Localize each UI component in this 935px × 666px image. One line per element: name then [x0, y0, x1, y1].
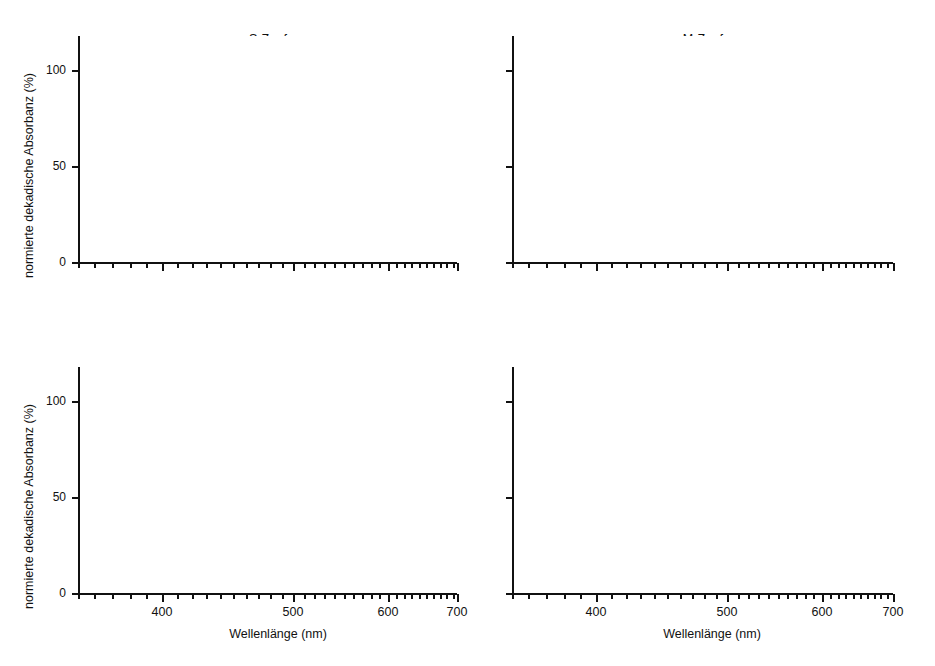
x-tick-440: [654, 263, 656, 268]
x-tick-550: [344, 263, 346, 268]
x-tick-680: [446, 594, 448, 599]
x-tick-630: [845, 594, 847, 599]
x-tick-350: [512, 594, 514, 599]
x-tick-500: [293, 263, 295, 271]
x-tick-420: [192, 594, 194, 599]
x-tick-640: [853, 263, 855, 268]
x-tick-500: [727, 263, 729, 271]
x-tick-410: [177, 594, 179, 599]
x-tick-690: [887, 263, 889, 268]
x-tick-620: [404, 594, 406, 599]
x-tick-450: [667, 594, 669, 599]
x-tick-520: [314, 263, 316, 268]
x-tick-620: [404, 263, 406, 268]
x-tick-650: [860, 594, 862, 599]
x-tick-560: [353, 263, 355, 268]
x-tick-440: [220, 594, 222, 599]
x-tick-460: [246, 263, 248, 268]
panel-l-zapfen: L-Zapfen 0 50 100 normierte dekadische A…: [0, 333, 480, 666]
x-tick-670: [440, 263, 442, 268]
y-tick-50: [72, 166, 79, 168]
x-tick-430: [640, 263, 642, 268]
x-tick-350: [78, 594, 80, 599]
x-tick-500: [727, 594, 729, 602]
x-axis-line: [78, 593, 457, 595]
x-tick-440: [654, 594, 656, 599]
x-tick-660: [867, 594, 869, 599]
x-tick-380: [564, 594, 566, 599]
x-tick-610: [396, 263, 398, 268]
x-tick-540: [334, 263, 336, 268]
x-tick-440: [220, 263, 222, 268]
x-tick-520: [314, 594, 316, 599]
x-tick-470: [692, 263, 694, 268]
x-tick-570: [796, 263, 798, 268]
x-tick-610: [830, 594, 832, 599]
x-tick-530: [324, 594, 326, 599]
x-tick-400: [596, 263, 598, 271]
y-tick-50: [506, 166, 513, 168]
x-tick-600: [822, 594, 824, 602]
x-tick-530: [324, 263, 326, 268]
x-tick-640: [853, 594, 855, 599]
x-tick-700: [893, 263, 895, 271]
x-tick-630: [411, 594, 413, 599]
x-tick-600: [388, 594, 390, 602]
x-tick-690: [453, 594, 455, 599]
x-tick-660: [867, 263, 869, 268]
x-tick-460: [246, 594, 248, 599]
x-tick-label-600: 600: [799, 605, 845, 619]
x-axis-title: Wellenlänge (nm): [622, 627, 802, 641]
x-tick-690: [887, 594, 889, 599]
x-tick-450: [233, 594, 235, 599]
x-tick-650: [426, 594, 428, 599]
x-tick-490: [282, 263, 284, 268]
x-tick-380: [564, 263, 566, 268]
x-tick-label-700: 700: [870, 605, 916, 619]
x-tick-540: [768, 594, 770, 599]
x-tick-360: [94, 263, 96, 268]
x-tick-670: [874, 263, 876, 268]
x-tick-350: [512, 263, 514, 268]
x-tick-370: [546, 594, 548, 599]
x-tick-610: [830, 263, 832, 268]
x-tick-700: [893, 594, 895, 602]
x-tick-420: [626, 594, 628, 599]
x-tick-600: [822, 263, 824, 271]
x-tick-560: [787, 594, 789, 599]
x-tick-660: [433, 263, 435, 268]
x-tick-410: [611, 594, 613, 599]
y-tick-50: [72, 497, 79, 499]
x-axis-line: [512, 262, 893, 264]
x-tick-390: [146, 263, 148, 268]
x-tick-670: [874, 594, 876, 599]
x-tick-540: [334, 594, 336, 599]
x-tick-570: [362, 594, 364, 599]
x-tick-480: [270, 263, 272, 268]
x-tick-350: [78, 263, 80, 268]
x-tick-370: [546, 263, 548, 268]
x-tick-620: [838, 594, 840, 599]
x-tick-480: [704, 594, 706, 599]
x-tick-520: [748, 594, 750, 599]
x-tick-410: [177, 263, 179, 268]
figure-root: S-Zapfen 0 50 100 normierte dekadische A…: [0, 0, 935, 666]
plot-area: [79, 367, 457, 593]
x-tick-460: [680, 263, 682, 268]
x-tick-370: [112, 594, 114, 599]
x-tick-680: [880, 594, 882, 599]
panel-m-zapfen: M-Zapfen: [480, 0, 935, 333]
x-tick-680: [446, 263, 448, 268]
x-tick-490: [282, 594, 284, 599]
x-tick-580: [371, 594, 373, 599]
x-tick-560: [787, 263, 789, 268]
x-tick-570: [796, 594, 798, 599]
x-tick-label-400: 400: [573, 605, 619, 619]
x-tick-630: [411, 263, 413, 268]
y-tick-100: [506, 70, 513, 72]
x-tick-510: [738, 263, 740, 268]
x-tick-630: [845, 263, 847, 268]
x-tick-450: [233, 263, 235, 268]
x-tick-580: [371, 263, 373, 268]
x-tick-360: [528, 263, 530, 268]
